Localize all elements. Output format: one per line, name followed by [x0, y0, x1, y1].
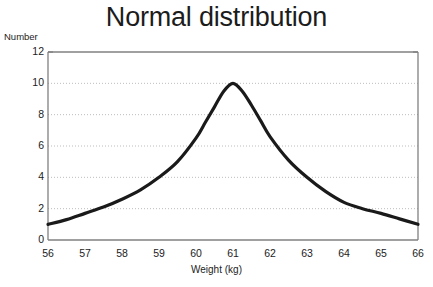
normal-distribution-chart: Normal distribution Number 024681012 565…	[0, 0, 433, 287]
plot-frame	[48, 52, 418, 240]
distribution-curve	[48, 83, 418, 224]
gridlines	[48, 83, 418, 208]
plot-area	[0, 0, 433, 287]
